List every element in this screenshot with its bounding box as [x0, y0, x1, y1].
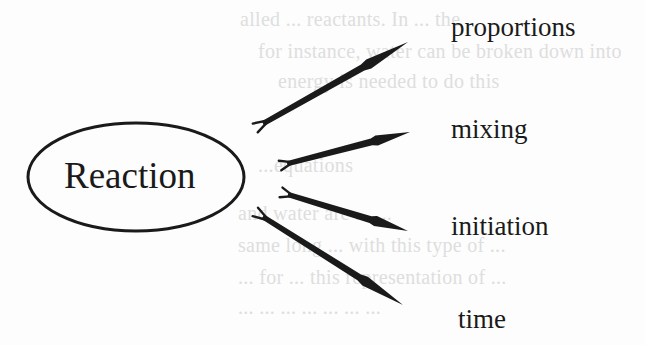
- arrow-fletch-icon: [283, 188, 291, 195]
- arrow-to-initiation: [280, 188, 408, 231]
- arrow-shaft-icon: [287, 192, 408, 231]
- arrows-group: [253, 42, 410, 305]
- arrow-fletch-icon: [258, 123, 267, 132]
- arrow-fletch-icon: [281, 164, 290, 170]
- arrow-shaft-icon: [262, 215, 404, 306]
- arrow-shaft-icon: [262, 42, 408, 126]
- center-label-reaction: Reaction: [64, 157, 196, 194]
- arrow-fletch-icon: [279, 161, 290, 162]
- arrow-to-mixing: [279, 132, 410, 170]
- arrow-to-proportions: [253, 42, 408, 132]
- branch-label-initiation: initiation: [451, 213, 549, 240]
- diagram-page: alled ... reactants. In ... the for inst…: [0, 0, 645, 345]
- branch-label-mixing: mixing: [451, 116, 528, 143]
- arrow-fletch-icon: [280, 196, 291, 197]
- branch-label-proportions: proportions: [451, 14, 576, 41]
- arrow-fletch-icon: [258, 208, 266, 218]
- arrow-shaft-icon: [287, 132, 411, 166]
- branch-label-time: time: [458, 306, 506, 333]
